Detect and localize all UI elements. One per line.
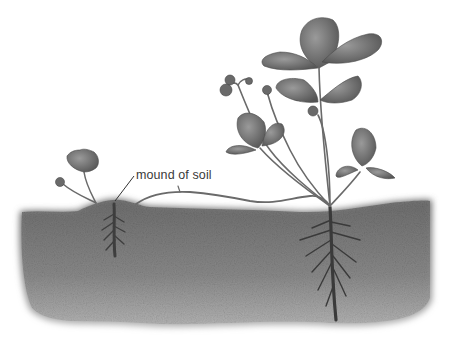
label-pointer [115,176,134,201]
daughter-bud [56,178,65,187]
left-leaflet-lower [226,146,256,155]
mid-right-leaf [320,76,361,103]
daughter-plant [56,149,99,203]
left-leaflet-upper [237,113,265,148]
strawberry-runner-illustration [0,0,450,351]
right-leaflet-left [336,166,358,177]
mound-of-soil-label: mound of soil [136,168,212,182]
right-leaflet-right [366,168,395,179]
mother-plant-leaves [226,18,395,179]
mid-left-leaf [276,78,318,102]
right-leaflet-top [352,128,376,166]
soil [19,199,432,327]
runner-stolon [136,186,330,206]
daughter-leaf [67,149,99,172]
